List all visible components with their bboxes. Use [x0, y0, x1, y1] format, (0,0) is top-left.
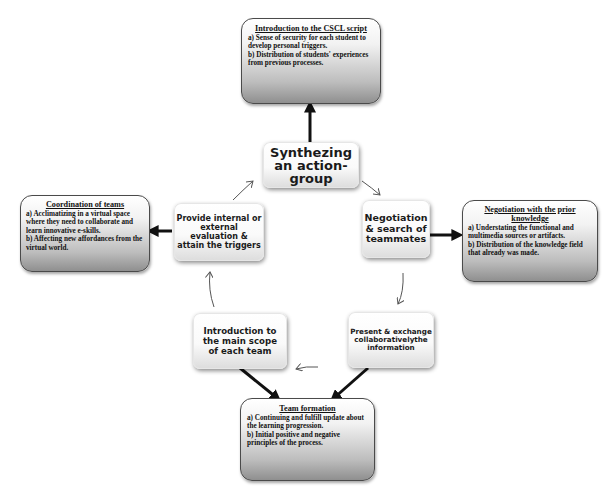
detail-box-coordination: Coordination of teams a) Acclimatizing i… — [20, 195, 150, 272]
detail-line: a) Acclimatizing in a virtual space wher… — [26, 210, 144, 235]
detail-line: a) Continuing and fulfill update about t… — [247, 414, 368, 431]
detail-box-team-formation: Team formation a) Continuing and fulfill… — [240, 398, 375, 481]
detail-box-intro-cscl: Introduction to the CSCL script a) Sense… — [241, 18, 381, 104]
detail-title: Negotiation with the prior knowledge — [468, 205, 592, 223]
step-negotiation-search: Negotiation & search of teammates — [362, 200, 430, 258]
step-label: Provide internal or external evaluation … — [176, 214, 262, 251]
step-label: Introduction to the main scope of each t… — [200, 326, 280, 356]
detail-title: Introduction to the CSCL script — [248, 24, 374, 33]
step-introduction-scope: Introduction to the main scope of each t… — [193, 313, 287, 369]
step-present-exchange: Present & exchange collaborativelythe in… — [348, 312, 434, 368]
detail-line: b) Affecting new affordances from the vi… — [26, 235, 144, 252]
step-label: Synthezing an action-group — [269, 146, 353, 185]
detail-line: b) Distribution of the knowledge field t… — [468, 241, 592, 258]
step-provide-evaluation: Provide internal or external evaluation … — [174, 203, 264, 261]
step-label: Negotiation & search of teammates — [364, 213, 428, 245]
step-label: Present & exchange collaborativelythe in… — [349, 328, 433, 353]
arrow-scope-to-team — [240, 368, 277, 398]
detail-title: Coordination of teams — [26, 200, 144, 209]
detail-line: a) Understating the functional and multi… — [468, 224, 592, 241]
arrow-scope-to-evaluation — [210, 272, 215, 307]
arrow-negotiation-to-present — [398, 273, 403, 304]
detail-line: b) Distribution of students' experiences… — [248, 51, 374, 68]
detail-line: a) Sense of security for each student to… — [248, 34, 374, 51]
detail-title: Team formation — [247, 404, 368, 413]
detail-line: b) Initial positive and negative princip… — [247, 431, 368, 448]
arrow-present-to-scope — [296, 367, 318, 369]
step-synthezing: Synthezing an action-group — [263, 142, 359, 188]
arrow-synth-to-negotiation — [362, 181, 380, 195]
arrow-evaluation-to-synth — [233, 181, 253, 200]
arrow-present-to-team — [334, 368, 368, 398]
detail-box-negotiation-prior: Negotiation with the prior knowledge a) … — [462, 200, 598, 282]
